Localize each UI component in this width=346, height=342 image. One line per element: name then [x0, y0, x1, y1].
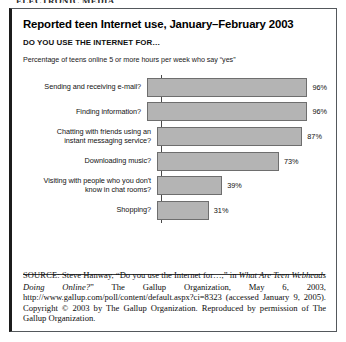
bar-area: 87% — [157, 124, 327, 149]
chart-row: Downloading music? 73% — [23, 149, 327, 174]
bar — [147, 78, 307, 97]
bar — [157, 127, 302, 146]
page-running-head: ELECTRONIC MEDIA — [16, 0, 166, 3]
bar-label-line: Downloading music? — [23, 157, 151, 166]
bar-label-line: Finding information? — [23, 108, 141, 117]
chart-row: Sending and receiving e-mail? 96% — [23, 75, 327, 100]
bar-label-line: Sending and receiving e-mail? — [23, 83, 141, 92]
bar-value-label: 96% — [312, 83, 327, 92]
bar-chart: Sending and receiving e-mail? 96% Findin… — [23, 75, 327, 223]
bar-area: 31% — [157, 198, 327, 223]
bar-label: Sending and receiving e-mail? — [23, 83, 147, 92]
bar — [147, 102, 307, 121]
source-text-part1: Steve Hanway, “Do you use the Internet f… — [60, 270, 239, 280]
bar-label-line: know in chat rooms? — [23, 186, 151, 195]
bar-label: Finding information? — [23, 108, 147, 117]
bar-area: 73% — [157, 149, 327, 174]
bar-value-label: 31% — [214, 206, 229, 215]
bar — [157, 201, 209, 220]
figure-subtitle: DO YOU USE THE INTERNET FOR… — [23, 38, 325, 47]
bar — [157, 152, 279, 171]
chart-row: Shopping? 31% — [23, 198, 327, 223]
bar-label: Visiting with people who you don't know … — [23, 177, 157, 194]
figure-inner: Reported teen Internet use, January–Febr… — [12, 9, 336, 331]
figure-title: Reported teen Internet use, January–Febr… — [23, 18, 325, 31]
bar-value-label: 96% — [312, 107, 327, 116]
bar-label: Shopping? — [23, 206, 157, 215]
figure-note: Percentage of teens online 5 or more hou… — [23, 55, 325, 64]
bar-value-label: 73% — [284, 157, 299, 166]
bar-area: 39% — [157, 174, 327, 199]
source-note: SOURCE: Steve Hanway, “Do you use the In… — [23, 270, 326, 324]
bar-value-label: 87% — [307, 132, 322, 141]
bar-label-line: Shopping? — [23, 206, 151, 215]
bar-area: 96% — [147, 100, 327, 125]
bar-value-label: 39% — [227, 181, 242, 190]
chart-row: Chatting with friends using an instant m… — [23, 124, 327, 149]
source-label: SOURCE: — [23, 271, 60, 280]
bar-label-line: instant messaging service? — [23, 137, 151, 146]
bar — [157, 176, 222, 195]
bar-label: Chatting with friends using an instant m… — [23, 128, 157, 145]
bar-label: Downloading music? — [23, 157, 157, 166]
chart-row: Finding information? 96% — [23, 100, 327, 125]
figure-page: ELECTRONIC MEDIA Reported teen Internet … — [0, 0, 346, 342]
bar-area: 96% — [147, 75, 327, 100]
figure-frame: Reported teen Internet use, January–Febr… — [9, 8, 337, 332]
chart-row: Visiting with people who you don't know … — [23, 174, 327, 199]
